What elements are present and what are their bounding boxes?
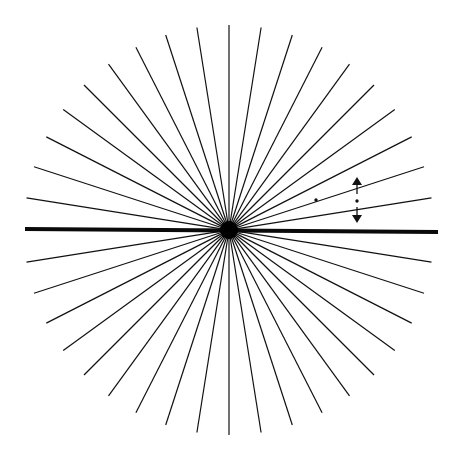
center-convergence-point xyxy=(220,221,238,239)
dot-marker xyxy=(314,198,317,201)
radial-lines-diagram xyxy=(0,0,460,465)
dot-marker xyxy=(355,199,358,202)
